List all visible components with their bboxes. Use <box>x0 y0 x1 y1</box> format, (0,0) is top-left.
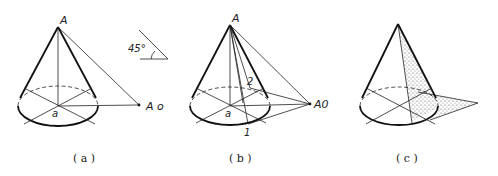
cone-self-shadow <box>398 24 438 121</box>
shadow-axis-line <box>58 105 139 106</box>
point-2-label: 2 <box>247 76 253 87</box>
panel-b: A a A0 1 2 ( b ) <box>190 12 329 165</box>
apex-label: A <box>59 14 68 27</box>
tangent-line-2 <box>250 88 310 104</box>
angle-label: 45° <box>128 43 146 54</box>
apex-label: A <box>231 12 240 25</box>
base-center-label: a <box>52 108 58 119</box>
shadow-point-label: A0 <box>313 98 329 111</box>
caption-c: ( c ) <box>396 152 418 165</box>
angle-45-symbol: 45° <box>128 30 168 59</box>
angle-arc <box>151 51 155 59</box>
light-ray <box>58 27 139 105</box>
cone-shadow-diagram: A a A o 45° ( a ) A a A0 1 2 ( b <box>0 0 498 176</box>
panel-a: A a A o 45° ( a ) <box>18 14 168 165</box>
tangent-line-1 <box>248 104 310 124</box>
point-1-label: 1 <box>244 127 250 138</box>
shadow-point <box>138 104 141 107</box>
cone-left-generatrix <box>20 27 58 98</box>
panel-c: ( c ) <box>360 24 478 165</box>
base-center-label: a <box>225 108 231 119</box>
caption-a: ( a ) <box>73 152 95 165</box>
caption-b: ( b ) <box>229 152 252 165</box>
shadow-point <box>309 103 312 106</box>
shadow-point-label: A o <box>145 100 164 113</box>
cone-right-generatrix <box>58 27 96 98</box>
